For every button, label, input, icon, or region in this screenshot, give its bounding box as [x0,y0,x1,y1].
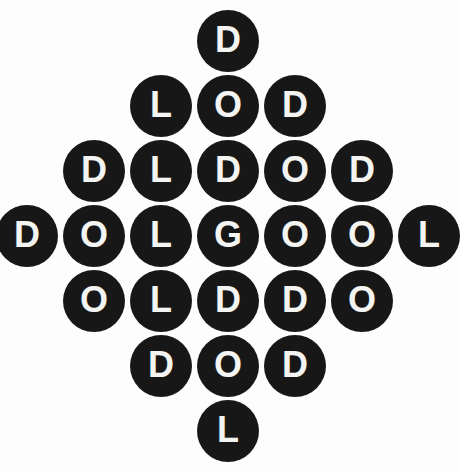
letter-row-1: L O D [0,75,456,137]
letter-circle[interactable]: D [0,205,58,267]
letter-glyph: O [281,152,309,188]
letter-glyph: D [14,217,40,253]
letter-row-0: D [0,10,456,72]
letter-glyph: D [282,282,308,318]
letter-circle[interactable]: O [197,335,259,397]
letter-row-6: L [0,400,456,462]
letter-circle[interactable]: D [331,140,393,202]
letter-glyph: D [282,347,308,383]
letter-circle[interactable]: L [130,140,192,202]
letter-glyph: O [80,282,108,318]
letter-glyph: D [349,152,375,188]
letter-glyph: O [214,87,242,123]
letter-circle[interactable]: O [197,75,259,137]
letter-glyph: D [215,282,241,318]
letter-row-5: D O D [0,335,456,397]
letter-circle[interactable]: L [130,270,192,332]
letter-circle[interactable]: L [130,205,192,267]
letter-circle[interactable]: O [264,205,326,267]
letter-glyph: L [418,217,440,253]
letter-circle[interactable]: D [264,335,326,397]
letter-glyph: D [282,87,308,123]
letter-glyph: G [214,217,242,253]
letter-row-3: D O L G O O L [0,205,456,267]
letter-glyph: O [348,282,376,318]
letter-circle[interactable]: L [130,75,192,137]
letter-glyph: D [148,347,174,383]
letter-circle[interactable]: D [130,335,192,397]
letter-circle[interactable]: O [331,205,393,267]
letter-circle[interactable]: L [197,400,259,462]
letter-glyph: L [150,152,172,188]
letter-glyph: O [348,217,376,253]
letter-circle[interactable]: O [264,140,326,202]
letter-glyph: L [150,282,172,318]
letter-circle[interactable]: D [264,270,326,332]
letter-circle[interactable]: D [197,10,259,72]
letter-circle[interactable]: O [63,205,125,267]
letter-circle[interactable]: D [197,140,259,202]
letter-circle[interactable]: D [63,140,125,202]
letter-glyph: O [281,217,309,253]
letter-row-2: D L D O D [0,140,456,202]
letter-circle[interactable]: O [63,270,125,332]
letter-circle[interactable]: D [264,75,326,137]
letter-circle[interactable]: D [197,270,259,332]
letter-glyph: O [80,217,108,253]
letter-row-4: O L D D O [0,270,456,332]
letter-glyph: O [214,347,242,383]
letter-glyph: D [215,22,241,58]
letter-glyph: D [215,152,241,188]
letter-glyph: L [150,87,172,123]
letter-glyph: L [150,217,172,253]
letter-circle[interactable]: G [197,205,259,267]
letter-glyph: L [217,412,239,448]
letter-glyph: D [81,152,107,188]
letter-circle[interactable]: O [331,270,393,332]
letter-circle[interactable]: L [398,205,460,267]
